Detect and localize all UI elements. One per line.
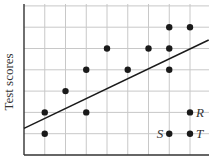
scatter-chart: SRT Test scores (0, 0, 211, 160)
point-label-s: S (157, 126, 164, 141)
data-point (104, 45, 110, 51)
data-point (187, 24, 193, 30)
data-point (166, 24, 172, 30)
point-label-t: T (196, 126, 204, 141)
point-label-r: R (195, 105, 204, 120)
data-point (166, 67, 172, 73)
data-point (83, 109, 89, 115)
data-point (83, 67, 89, 73)
grid-lines (24, 4, 209, 155)
y-axis-label: Test scores (1, 53, 16, 110)
trend-line (24, 40, 209, 128)
data-point (62, 88, 68, 94)
data-point (42, 109, 48, 115)
regression-line (24, 40, 209, 128)
data-point (166, 131, 172, 137)
data-point (187, 109, 193, 115)
point-labels: SRT (157, 105, 204, 141)
data-point (145, 45, 151, 51)
data-points (42, 24, 194, 137)
data-point (166, 45, 172, 51)
data-point (187, 131, 193, 137)
data-point (125, 67, 131, 73)
axes (24, 4, 209, 155)
data-point (42, 131, 48, 137)
